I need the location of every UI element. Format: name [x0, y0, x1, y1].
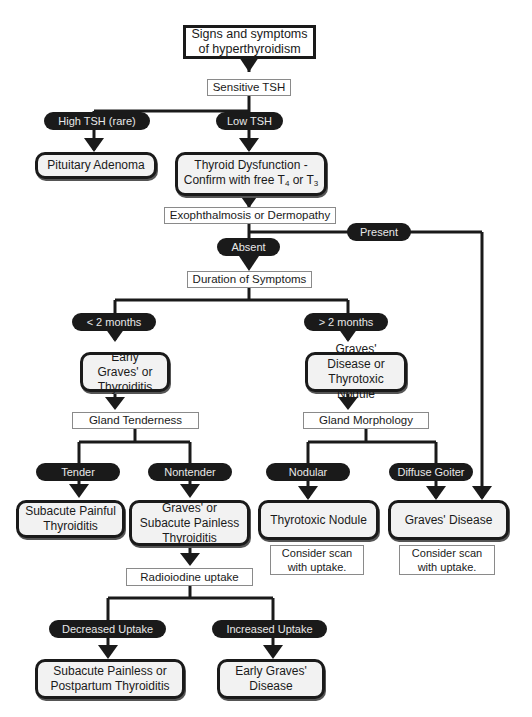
- arrowhead: [105, 397, 125, 410]
- arrowhead: [472, 486, 492, 500]
- outcome-graves-disease: Graves' Disease: [388, 500, 509, 540]
- arrowhead: [98, 645, 118, 659]
- arrowhead: [239, 194, 259, 208]
- outcome-subacute-painless-postpartum: Subacute Painless or Postpartum Thyroidi…: [35, 659, 185, 699]
- branch-increased-uptake: Increased Uptake: [212, 620, 327, 638]
- arrowhead: [180, 484, 200, 498]
- start-text: Signs and symptoms of hyperthyroidism: [186, 27, 313, 57]
- branch-tender: Tender: [36, 463, 120, 481]
- branch-diffuse-goiter: Diffuse Goiter: [389, 463, 473, 481]
- test-duration-of-symptoms: Duration of Symptoms: [187, 271, 312, 288]
- arrowhead: [239, 57, 259, 72]
- arrowhead: [298, 486, 318, 500]
- test-sensitive-tsh: Sensitive TSH: [207, 79, 291, 96]
- test-gland-tenderness: Gland Tenderness: [72, 412, 199, 429]
- outcome-pituitary-adenoma: Pituitary Adenoma: [35, 152, 157, 179]
- arrowhead: [84, 138, 104, 152]
- test-radioiodine-uptake: Radioiodine uptake: [126, 568, 253, 586]
- outcome-subacute-painful-thyroiditis: Subacute Painful Thyroiditis: [16, 500, 125, 538]
- branch-present: Present: [347, 223, 411, 241]
- arrowhead: [426, 486, 446, 500]
- arrowhead: [69, 484, 89, 498]
- arrowhead: [239, 138, 259, 152]
- branch-decreased-uptake: Decreased Uptake: [49, 620, 166, 638]
- branch-gt-2-months: > 2 months: [304, 313, 388, 331]
- confirm-free-t4-t3: Confirm with free T4 or T3: [184, 173, 319, 191]
- arrowhead: [263, 645, 283, 659]
- note-graves-consider-scan: Consider scan with uptake.: [399, 545, 495, 575]
- branch-nodular: Nodular: [266, 463, 350, 481]
- outcome-early-graves-disease: Early Graves' Disease: [217, 659, 325, 699]
- note-nodule-consider-scan: Consider scan with uptake.: [270, 545, 364, 575]
- outcome-thyrotoxic-nodule: Thyrotoxic Nodule: [258, 500, 379, 540]
- arrowhead: [180, 553, 200, 566]
- start-box: Signs and symptoms of hyperthyroidism: [183, 25, 316, 59]
- outcome-graves-or-thyrotoxic-nodule: Graves' Disease or Thyrotoxic Nodule: [305, 352, 407, 392]
- arrowhead: [239, 256, 259, 271]
- outcome-early-graves-or-thyroiditis: Early Graves' or Thyroiditis: [80, 352, 170, 392]
- branch-lt-2-months: < 2 months: [72, 313, 156, 331]
- outcome-graves-or-subacute-painless: Graves' or Subacute Painless Thyroiditis: [129, 500, 250, 546]
- branch-high-tsh: High TSH (rare): [44, 112, 150, 130]
- branch-low-tsh: Low TSH: [216, 112, 283, 130]
- branch-absent: Absent: [217, 238, 280, 256]
- test-gland-morphology: Gland Morphology: [303, 412, 429, 429]
- outcome-thyroid-dysfunction: Thyroid Dysfunction - Confirm with free …: [175, 152, 327, 196]
- test-exophthalmosis-dermopathy: Exophthalmosis or Dermopathy: [164, 207, 336, 224]
- branch-nontender: Nontender: [148, 463, 232, 481]
